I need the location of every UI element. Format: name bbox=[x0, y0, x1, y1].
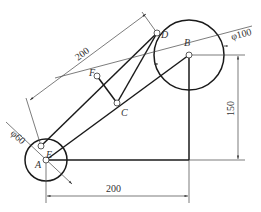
link-e-d bbox=[41, 33, 157, 146]
joint-b bbox=[186, 52, 192, 58]
label-d: D bbox=[160, 29, 169, 40]
dim-text-vertical: 150 bbox=[225, 101, 236, 116]
label-e: E bbox=[45, 149, 52, 160]
dim-text-phi60: φ60 bbox=[9, 127, 28, 146]
joint-c bbox=[114, 100, 120, 106]
dim-text-phi100: φ100 bbox=[230, 26, 253, 42]
dim-text-diagonal: 200 bbox=[73, 45, 92, 63]
ext-line-e bbox=[26, 98, 41, 146]
label-b: B bbox=[184, 37, 190, 48]
label-c: C bbox=[121, 107, 128, 118]
dim-line-diagonal bbox=[30, 14, 146, 100]
label-f: F bbox=[88, 67, 96, 78]
label-a: A bbox=[34, 159, 42, 170]
mechanism-diagram: A B C D E F 200 150 200 φ60 φ100 bbox=[0, 0, 261, 212]
joint-e bbox=[38, 143, 44, 149]
dim-text-horizontal: 200 bbox=[106, 183, 121, 194]
joint-d bbox=[154, 30, 160, 36]
